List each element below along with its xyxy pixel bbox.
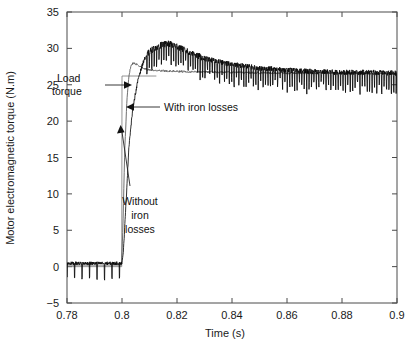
annotation-with-iron-losses: With iron losses xyxy=(164,101,238,113)
annotation-without-iron-losses-line3: losses xyxy=(125,223,155,235)
without-iron-losses-leader xyxy=(122,132,130,186)
y-tick-label: −5 xyxy=(46,297,59,309)
x-tick-label: 0.86 xyxy=(276,309,297,321)
x-tick-label: 0.78 xyxy=(56,309,77,321)
without-iron-losses-arrowhead xyxy=(117,125,125,133)
series-with-iron-losses xyxy=(67,41,397,280)
y-tick-label: 35 xyxy=(47,6,59,18)
annotation-without-iron-losses-line2: iron xyxy=(131,209,149,221)
y-tick-label: 30 xyxy=(47,42,59,54)
chart-figure: −505101520253035 0.780.80.820.840.860.88… xyxy=(0,0,419,344)
x-axis-label: Time (s) xyxy=(205,327,245,339)
x-tick-label: 0.82 xyxy=(166,309,187,321)
y-tick-label: 0 xyxy=(53,261,59,273)
x-tick-label: 0.88 xyxy=(331,309,352,321)
data-curves xyxy=(67,41,397,280)
annotation-without-iron-losses-line1: Without xyxy=(122,195,158,207)
plot-frame xyxy=(67,12,397,303)
annotation-leaders xyxy=(105,81,160,186)
x-tick-label: 0.9 xyxy=(389,309,404,321)
x-tick-label: 0.8 xyxy=(114,309,129,321)
torque-line-chart: −505101520253035 0.780.80.820.840.860.88… xyxy=(0,0,419,344)
y-tick-label: 15 xyxy=(47,152,59,164)
with-iron-losses-arrowhead xyxy=(126,103,134,111)
y-axis-label: Motor electromagnetic torque (N.m) xyxy=(4,71,16,245)
series-load-torque xyxy=(67,76,156,267)
series-without-iron-losses xyxy=(67,63,397,266)
y-tick-label: 10 xyxy=(47,188,59,200)
y-tick-label: 5 xyxy=(53,224,59,236)
y-tick-label: 20 xyxy=(47,115,59,127)
annotation-load-torque-line2: torque xyxy=(52,85,82,97)
annotation-load-torque-line1: Load xyxy=(57,72,81,84)
x-tick-label: 0.84 xyxy=(221,309,242,321)
x-axis-ticks: 0.780.80.820.840.860.880.9 xyxy=(56,12,404,321)
